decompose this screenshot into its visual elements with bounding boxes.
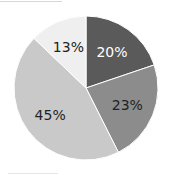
bottom-divider <box>8 173 58 174</box>
slice-label: 45% <box>35 107 66 123</box>
slice-label: 13% <box>53 39 84 55</box>
slice-label: 20% <box>96 44 127 60</box>
slice-label: 23% <box>112 97 143 113</box>
pie-chart <box>0 0 172 175</box>
